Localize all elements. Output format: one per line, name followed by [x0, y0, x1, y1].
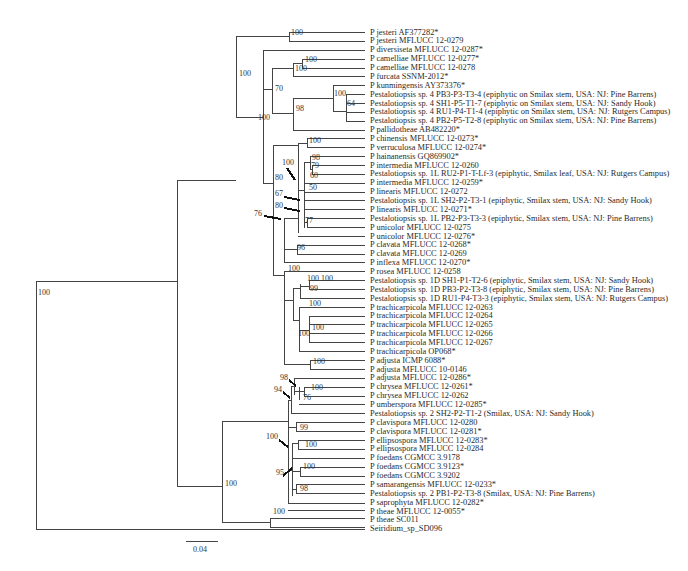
taxon-label: P trachicarpicola MFLUCC 12-0267: [370, 338, 493, 347]
taxon-label: P ellipsospora MFLUCC 12-0284: [370, 444, 483, 453]
bootstrap-value: 100: [303, 463, 315, 471]
taxon-label: Seiridium_sp_SD096: [370, 524, 442, 533]
taxon-label: Pestalotiopsis sp. 2 PB1-P2-T3-8 (Smilax…: [370, 489, 595, 498]
taxon-label: P ellipsospora MFLUCC 12-0283*: [370, 436, 488, 445]
bootstrap-value: 100: [288, 265, 300, 273]
bootstrap-value: 100: [38, 289, 50, 297]
taxon-label: P unicolor MFLUCC 12-0276*: [370, 232, 475, 241]
bootstrap-value: 94: [274, 386, 282, 394]
taxon-label: P saprophyta MFLUCC 12-0282*: [370, 498, 484, 507]
bootstrap-value: 100: [291, 29, 303, 37]
taxon-label: P adjusta ICMP 6088*: [370, 356, 445, 365]
bootstrap-value: 100: [225, 480, 237, 488]
taxon-label: P clavispora MFLUCC 12-0280: [370, 418, 477, 427]
taxon-label: P clavata MFLUCC 12-0268*: [370, 240, 471, 249]
scale-bar-label: 0.04: [193, 545, 207, 554]
taxon-label: P inflexa MFLUCC 12-0270*: [370, 258, 470, 267]
bootstrap-value: 96: [297, 244, 305, 252]
taxon-label: P samarangensis MFLUCC 12-0233*: [370, 480, 496, 489]
bootstrap-value: 80: [275, 174, 283, 182]
taxon-label: P adjusta MFLUCC 10-0146: [370, 365, 467, 374]
taxon-label: P trachicarpicola MFLUCC 12-0263: [370, 303, 493, 312]
taxon-label: P chrysea MFLUCC 12-0261*: [370, 382, 473, 391]
bootstrap-value: 80: [275, 202, 283, 210]
bootstrap-value: 100: [321, 275, 333, 283]
taxon-label: P clavata MFLUCC 12-0269: [370, 249, 467, 258]
taxon-label: P trachicarpicola OP068*: [370, 347, 456, 356]
bootstrap-value: 100: [266, 433, 278, 441]
bootstrap-value: 100: [334, 90, 346, 98]
taxon-label: P linearis MFLUCC 12-0271*: [370, 205, 472, 214]
bootstrap-value: 95: [276, 469, 284, 477]
bootstrap-value: 100: [307, 275, 319, 283]
taxon-label: P unicolor MFLUCC 12-0275: [370, 223, 471, 232]
bootstrap-value: 76: [303, 394, 311, 402]
taxon-label: P trachicarpicola MFLUCC 12-0266: [370, 329, 493, 338]
taxon-label: P kunmingensis AY373376*: [370, 81, 465, 90]
bootstrap-value: 98: [300, 485, 308, 493]
bootstrap-value: 100: [313, 358, 325, 366]
taxon-label: P chinensis MFLUCC 12-0273*: [370, 134, 478, 143]
taxon-label: P foedans CGMCC 3.9123*: [370, 462, 464, 471]
taxon-label: P jesteri AF377282*: [370, 28, 439, 37]
taxon-label: P chrysea MFLUCC 12-0262: [370, 391, 469, 400]
taxon-label: Pestalotiopsis sp. 4 SH1-P5-T1-7 (epiphy…: [370, 99, 655, 108]
taxon-label: Pestalotiopsis sp. 2 SH2-P2-T1-2 (Smilax…: [370, 409, 594, 418]
taxon-label: P trachicarpicola MFLUCC 12-0265: [370, 320, 493, 329]
taxon-label: Pestalotiopsis sp. 1L RU2-P1-T-Lf-3 (epi…: [370, 169, 669, 178]
taxon-label: P camelliae MFLUCC 12-0278: [370, 63, 475, 72]
taxon-label: Pestalotiopsis sp. 4 RU1-P4-T1-4 (epiphy…: [370, 107, 670, 116]
taxon-label: P intermedia MFLUCC 12-0259*: [370, 178, 483, 187]
bootstrap-value: 100: [305, 56, 317, 64]
taxon-label: Pestalotiopsis sp. 1D RU1-P4-T3-3 (epiph…: [370, 294, 668, 303]
bootstrap-value: 50: [309, 184, 317, 192]
bootstrap-value: 99: [300, 424, 308, 432]
bootstrap-value: 60: [310, 172, 318, 180]
taxon-label: P camelliae MFLUCC 12-0277*: [370, 54, 479, 63]
arrow-100: [287, 168, 295, 180]
arrow-98: [289, 380, 296, 386]
taxon-label: P furcata SSNM-2012*: [370, 72, 448, 81]
taxon-label: P linearis MFLUCC 12-0272: [370, 187, 468, 196]
bootstrap-value: 98: [280, 374, 288, 382]
bootstrap-value: 64: [347, 100, 355, 108]
taxon-label: P trachicarpicola MFLUCC 12-0264: [370, 311, 493, 320]
taxon-label: P diversiseta MFLUCC 12-0287*: [370, 45, 483, 54]
taxon-label: P theae SC011: [370, 515, 419, 524]
bootstrap-value: 100: [311, 384, 323, 392]
bootstrap-value: 99: [310, 285, 318, 293]
bootstrap-value: 100: [298, 330, 310, 338]
taxon-label: P verruculosa MFLUCC 12-0274*: [370, 143, 486, 152]
bootstrap-value: 100: [312, 324, 324, 332]
bootstrap-value: 100: [273, 508, 285, 516]
bootstrap-value: 100: [239, 70, 251, 78]
root-branch: [36, 281, 177, 529]
bootstrap-value: 98: [296, 105, 304, 113]
bootstrap-value: 100: [305, 441, 317, 449]
bootstrap-value: 100: [309, 137, 321, 145]
taxon-label: P intermedia MFLUCC 12-0260: [370, 161, 479, 170]
taxon-label: P jesteri MFLUCC 12-0279: [370, 36, 463, 45]
taxon-label: Pestalotiopsis sp. 1D PB3-P2-T3-8 (epiph…: [370, 285, 654, 294]
arrow-100b: [279, 440, 288, 447]
bootstrap-value: 70: [275, 85, 283, 93]
bootstrap-value: 100: [295, 65, 307, 73]
bootstrap-value: 100: [258, 114, 270, 122]
taxon-label: Pestalotiopsis sp. 4 PB3-P3-T3-4 (epiphy…: [370, 90, 656, 99]
taxon-label: P adjusta MFLUCC 12-0286*: [370, 373, 471, 382]
taxon-label: P theae MFLUCC 12-0055*: [370, 507, 465, 516]
taxon-label: P foedans CGMCC 3.9202: [370, 471, 460, 480]
bootstrap-value: 67: [275, 190, 283, 198]
taxon-label: P umberspora MFLUCC 12-0285*: [370, 400, 487, 409]
taxon-label: P clavispora MFLUCC 12-0281*: [370, 427, 482, 436]
taxon-label: P rosea MFLUCC 12-0258: [370, 267, 461, 276]
bootstrap-value: 76: [254, 210, 262, 218]
bootstrap-value: 79: [311, 162, 319, 170]
taxon-label: Pestalotiopsis sp. 4 PB2-P5-T2-8 (epiphy…: [370, 116, 656, 125]
taxon-label: P pallidotheae AB482220*: [370, 125, 460, 134]
taxon-label: Pestalotiopsis sp. 1D SH1-P1-T2-6 (epiph…: [370, 276, 653, 285]
taxon-label: P hainanensis GQ869902*: [370, 152, 459, 161]
bootstrap-value: 100: [309, 300, 321, 308]
taxon-label: Pestalotiopsis sp. 1L SH2-P2-T3-1 (epiph…: [370, 196, 652, 205]
bootstrap-value: 100: [282, 159, 294, 167]
